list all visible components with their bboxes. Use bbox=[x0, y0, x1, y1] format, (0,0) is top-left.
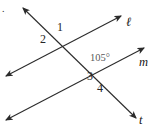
line-l bbox=[6, 16, 121, 76]
angle-measure-105: 105° bbox=[90, 53, 110, 64]
corner-marker: . bbox=[2, 4, 5, 14]
geometry-canvas bbox=[0, 0, 155, 129]
line-label-l: ℓ bbox=[126, 16, 131, 29]
line-t bbox=[23, 8, 136, 118]
angle-label-1: 1 bbox=[57, 21, 63, 33]
geometry-diagram: . 1 2 3 4 105° ℓ m t bbox=[0, 0, 155, 129]
line-label-t: t bbox=[139, 114, 142, 127]
angle-label-3: 3 bbox=[87, 70, 93, 82]
angle-label-4: 4 bbox=[97, 82, 103, 94]
line-label-m: m bbox=[139, 56, 148, 69]
angle-label-2: 2 bbox=[40, 33, 46, 45]
line-group bbox=[6, 8, 144, 120]
